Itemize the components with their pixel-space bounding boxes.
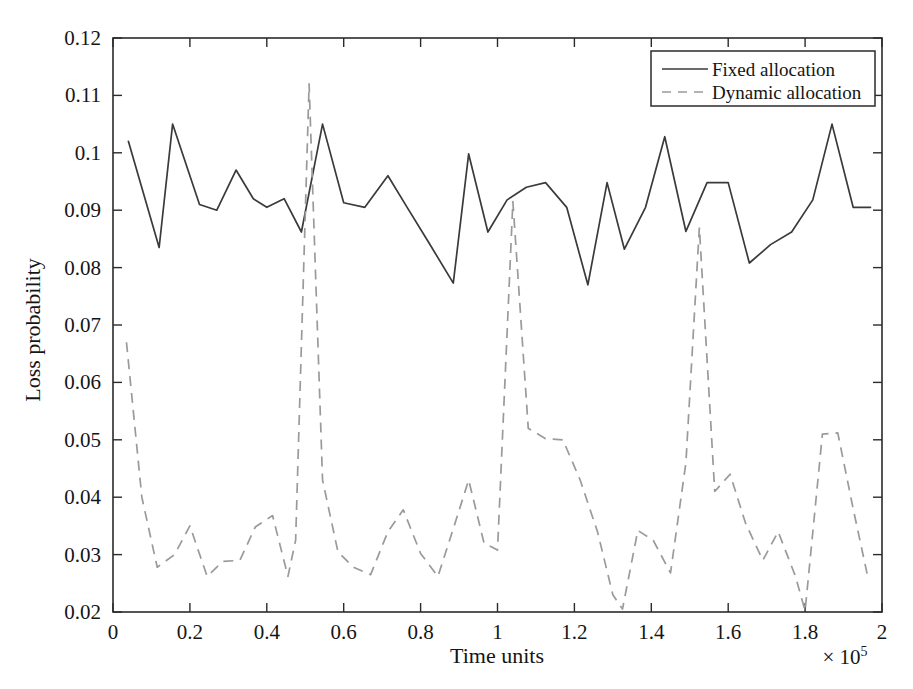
x-axis-tick-labels: 00.20.40.60.811.21.41.61.82 (108, 620, 888, 644)
y-tick-label: 0.1 (75, 141, 101, 165)
x-tick-label: 0.6 (331, 620, 357, 644)
y-tick-label: 0.08 (64, 256, 101, 280)
y-tick-label: 0.05 (64, 428, 101, 452)
x-axis-label: Time units (450, 643, 544, 668)
y-axis-label: Loss probability (20, 258, 45, 402)
y-axis-tick-labels: 0.020.030.040.050.060.070.080.090.10.110… (64, 26, 101, 624)
x-tick-label: 0 (108, 620, 119, 644)
legend: Fixed allocationDynamic allocation (651, 51, 875, 106)
y-tick-label: 0.07 (64, 313, 101, 337)
series-line-dynamic-allocation (126, 84, 868, 611)
x-tick-label: 0.4 (254, 620, 281, 644)
y-tick-label: 0.02 (64, 600, 101, 624)
y-axis-ticks (113, 38, 882, 612)
x-tick-label: 0.8 (407, 620, 433, 644)
y-tick-label: 0.03 (64, 543, 101, 567)
series-line-fixed-allocation (128, 124, 870, 285)
x-tick-label: 1.8 (792, 620, 818, 644)
x-axis-multiplier-exponent: 5 (861, 644, 868, 659)
y-tick-label: 0.04 (64, 485, 101, 509)
plot-border (113, 38, 882, 612)
x-tick-label: 1.2 (561, 620, 587, 644)
legend-label-fixed-allocation: Fixed allocation (712, 59, 835, 80)
x-axis-multiplier: × 105 (822, 644, 867, 669)
y-tick-label: 0.06 (64, 370, 101, 394)
x-tick-label: 2 (877, 620, 888, 644)
chart-figure: 00.20.40.60.811.21.41.61.82 0.020.030.04… (0, 0, 913, 689)
y-tick-label: 0.12 (64, 26, 101, 50)
y-tick-label: 0.11 (65, 83, 101, 107)
x-tick-label: 1 (492, 620, 503, 644)
data-series (126, 84, 870, 611)
x-tick-label: 0.2 (177, 620, 203, 644)
x-tick-label: 1.6 (715, 620, 741, 644)
x-axis-ticks (113, 38, 882, 612)
loss-probability-line-chart: 00.20.40.60.811.21.41.61.82 0.020.030.04… (0, 0, 913, 689)
plot-frame (113, 38, 882, 612)
legend-label-dynamic-allocation: Dynamic allocation (712, 82, 862, 103)
x-tick-label: 1.4 (638, 620, 665, 644)
y-tick-label: 0.09 (64, 198, 101, 222)
x-axis-multiplier-base: × 10 (822, 645, 860, 669)
